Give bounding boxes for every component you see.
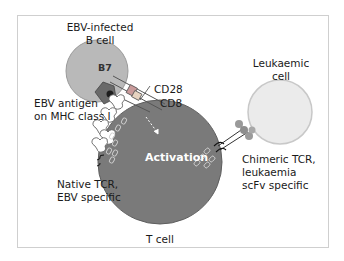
leukaemic-cell-label: Leukaemic cell xyxy=(245,57,317,83)
ebv-antigen-label-line2: on MHC class I xyxy=(34,110,111,123)
native-tcr-label-line1: Native TCR, xyxy=(57,178,121,191)
diagram-graphics xyxy=(0,0,344,261)
ebv-antigen-label: EBV antigen on MHC class I xyxy=(34,97,111,123)
chimeric-tcr-label-line3: scFv specific xyxy=(242,179,316,192)
leukaemic-cell-label-line1: Leukaemic xyxy=(245,57,317,70)
b-cell-label-line2: B cell xyxy=(60,34,140,47)
chimeric-tcr-label-line2: leukaemia xyxy=(242,166,316,179)
cd28-label: CD28 xyxy=(154,83,183,96)
native-tcr-label: Native TCR, EBV specific xyxy=(57,178,121,204)
cd8-label: CD8 xyxy=(160,97,182,110)
chimeric-tcr-label: Chimeric TCR, leukaemia scFv specific xyxy=(242,153,316,192)
ebv-antigen-label-line1: EBV antigen xyxy=(34,97,111,110)
b-cell-label-line1: EBV-infected xyxy=(60,21,140,34)
cd-pointer-line xyxy=(140,86,150,100)
leukaemic-cell xyxy=(248,80,312,144)
leukaemic-cell-label-line2: cell xyxy=(245,70,317,83)
chimeric-tcr-label-line1: Chimeric TCR, xyxy=(242,153,316,166)
native-tcr-label-line2: EBV specific xyxy=(57,191,121,204)
t-cell-label: T cell xyxy=(135,233,185,246)
b7-label: B7 xyxy=(98,62,112,73)
b-cell-label: EBV-infected B cell xyxy=(60,21,140,47)
activation-label: Activation xyxy=(145,151,208,164)
